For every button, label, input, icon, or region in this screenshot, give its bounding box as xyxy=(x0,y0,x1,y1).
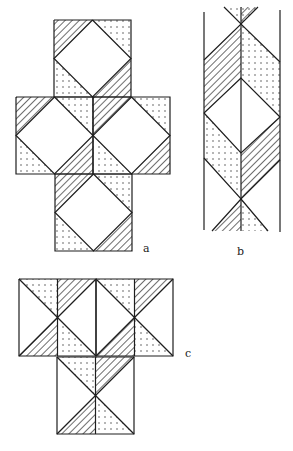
pattern-diagram xyxy=(0,0,293,451)
strip-region xyxy=(241,24,280,117)
figure-c-t-pattern xyxy=(19,279,173,434)
label-c: c xyxy=(185,347,191,360)
strip-region xyxy=(204,24,241,113)
label-b: b xyxy=(237,245,244,258)
strip-region xyxy=(241,117,280,199)
label-a: a xyxy=(143,242,150,255)
figure-a-cross-pattern xyxy=(16,20,170,251)
strip-region xyxy=(204,113,241,199)
figure-b-strip-pattern xyxy=(204,7,280,232)
